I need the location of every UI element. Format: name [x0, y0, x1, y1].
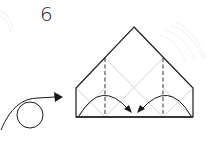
turn-over-arrowhead-icon: [54, 92, 63, 102]
paper-outline: [76, 27, 193, 117]
diagram-canvas: [0, 0, 207, 147]
watermark-swirl: [0, 10, 205, 63]
turn-over-symbol: [1, 97, 55, 130]
turn-over-loop: [17, 102, 43, 128]
right-fold-arrow: [141, 95, 191, 116]
origami-step-diagram: 6: [0, 0, 207, 147]
arrow-heads: [124, 105, 145, 113]
right-arrowhead-icon: [137, 105, 145, 113]
crease-lines: [76, 58, 193, 117]
